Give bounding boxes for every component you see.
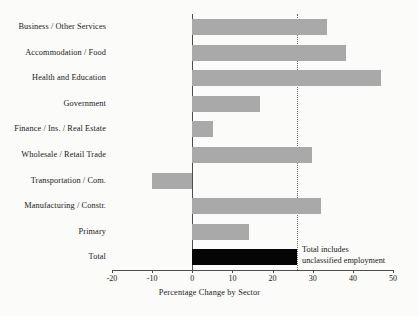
annotation-total-includes: Total includes unclassified employment <box>302 245 385 266</box>
bar-row <box>112 142 393 168</box>
x-tick <box>232 270 233 273</box>
plot-area <box>112 14 393 270</box>
bar-row <box>112 193 393 219</box>
bar-chart: Business / Other Services Accommodation … <box>0 0 419 316</box>
bar-row <box>112 40 393 66</box>
x-tick <box>393 270 394 273</box>
category-label-manufacturing-constr: Manufacturing / Constr. <box>0 201 106 211</box>
category-label-health-and-education: Health and Education <box>0 73 106 83</box>
x-tick-label: 40 <box>349 274 357 283</box>
x-tick <box>152 270 153 273</box>
bar-business-other-services <box>192 19 327 35</box>
x-tick <box>273 270 274 273</box>
annotation-line-1: Total includes <box>302 245 385 256</box>
bar-row <box>112 65 393 91</box>
x-tick <box>112 270 113 273</box>
bar-government <box>192 96 259 112</box>
bar-health-and-education <box>192 70 381 86</box>
x-tick-label: 20 <box>269 274 277 283</box>
x-tick-label: 50 <box>389 274 397 283</box>
x-tick <box>353 270 354 273</box>
x-tick-label: 0 <box>190 274 194 283</box>
bar-wholesale-retail-trade <box>192 147 312 163</box>
category-label-accommodation-food: Accommodation / Food <box>0 48 106 58</box>
x-tick <box>192 270 193 273</box>
bar-row <box>112 219 393 245</box>
bar-row <box>112 14 393 40</box>
category-label-total: Total <box>0 252 106 262</box>
bar-manufacturing-constr <box>192 198 321 214</box>
category-label-primary: Primary <box>0 227 106 237</box>
bar-primary <box>192 224 249 240</box>
category-axis-labels: Business / Other Services Accommodation … <box>0 14 106 270</box>
category-label-business-other-services: Business / Other Services <box>0 22 106 32</box>
annotation-line-2: unclassified employment <box>302 256 385 267</box>
category-label-finance-ins-real-estate: Finance / Ins. / Real Estate <box>0 124 106 134</box>
x-tick <box>313 270 314 273</box>
x-axis-title: Percentage Change by Sector <box>0 288 419 297</box>
bar-total <box>192 249 296 265</box>
bar-finance-ins-real-estate <box>192 121 213 137</box>
x-tick-label: 30 <box>309 274 317 283</box>
x-tick-label: 10 <box>228 274 236 283</box>
bar-row <box>112 168 393 194</box>
x-axis: -20 -10 0 10 20 30 40 50 <box>112 270 393 271</box>
category-label-transportation-com: Transportation / Com. <box>0 176 106 186</box>
x-tick-label: -20 <box>107 274 118 283</box>
category-label-government: Government <box>0 99 106 109</box>
bar-rows <box>112 14 393 270</box>
x-tick-label: -10 <box>147 274 158 283</box>
bar-row <box>112 91 393 117</box>
bar-transportation-com <box>152 173 193 189</box>
bar-accommodation-food <box>192 45 346 61</box>
category-label-wholesale-retail-trade: Wholesale / Retail Trade <box>0 150 106 160</box>
bar-row <box>112 116 393 142</box>
